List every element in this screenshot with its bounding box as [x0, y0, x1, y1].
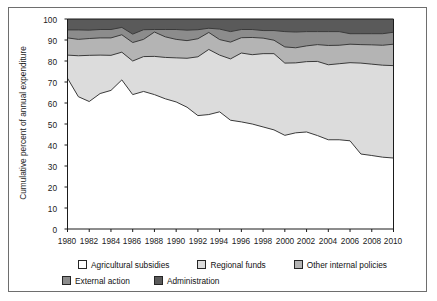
legend-item-agricultural-subsidies[interactable]: Agricultural subsidies — [78, 260, 169, 270]
legend-label-other-internal-policies: Other internal policies — [307, 260, 387, 270]
legend-item-external-action[interactable]: External action — [62, 276, 130, 286]
figure-root: Cumulative percent of annual expenditure… — [0, 0, 437, 301]
stacked-area-plot — [0, 0, 437, 301]
legend-swatch-agricultural-subsidies — [78, 260, 87, 269]
legend-row-1: Agricultural subsidies Regional funds Ot… — [16, 258, 421, 271]
legend-item-administration[interactable]: Administration — [154, 276, 220, 286]
legend-item-regional-funds[interactable]: Regional funds — [197, 260, 265, 270]
legend-swatch-regional-funds — [197, 260, 206, 269]
legend: Agricultural subsidies Regional funds Ot… — [16, 258, 421, 287]
legend-item-other-internal-policies[interactable]: Other internal policies — [294, 260, 387, 270]
chart-area: Cumulative percent of annual expenditure… — [0, 0, 437, 301]
legend-swatch-external-action — [62, 276, 71, 285]
legend-swatch-other-internal-policies — [294, 260, 303, 269]
area-series-group — [68, 19, 394, 229]
legend-label-agricultural-subsidies: Agricultural subsidies — [91, 260, 169, 270]
legend-label-regional-funds: Regional funds — [210, 260, 265, 270]
legend-label-administration: Administration — [167, 276, 220, 286]
legend-swatch-administration — [154, 276, 163, 285]
legend-label-external-action: External action — [75, 276, 130, 286]
legend-row-2: External action Administration — [16, 274, 421, 287]
